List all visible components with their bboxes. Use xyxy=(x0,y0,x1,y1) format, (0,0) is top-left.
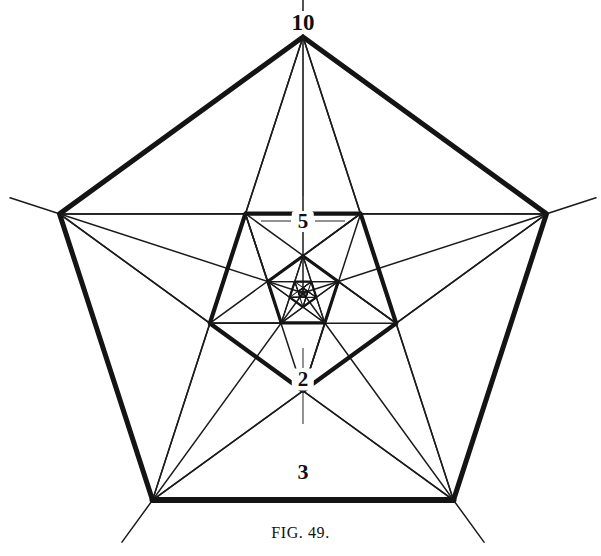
axis-label-10: 10 xyxy=(292,11,315,34)
axis-label-3: 3 xyxy=(298,461,309,483)
axis-label-5: 5 xyxy=(298,211,309,232)
figure-stage: 10 5 2 3 FIG. 49. xyxy=(0,0,601,556)
figure-caption: FIG. 49. xyxy=(0,524,601,542)
figure-caption-text: FIG. 49. xyxy=(271,524,330,541)
axis-label-2: 2 xyxy=(298,369,309,390)
